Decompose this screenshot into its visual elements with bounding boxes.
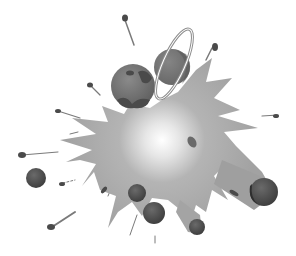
explosion-graphic: [0, 0, 296, 256]
orb: [189, 219, 205, 235]
orb: [143, 202, 165, 224]
planet-left: [111, 64, 155, 108]
explosion-illustration: [0, 0, 296, 256]
orb: [26, 168, 46, 188]
orb: [128, 184, 146, 202]
